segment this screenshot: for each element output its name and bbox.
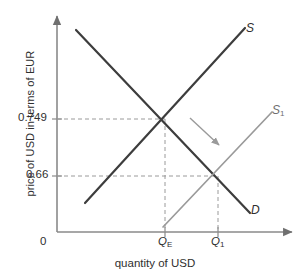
x-axis-title: quantity of USD [75,258,235,270]
x-tick-label-q-new-text: Q [211,235,220,247]
y-tick-label-price-high: 0.749 [18,112,47,124]
x-tick-label-q-new: Q1 [211,236,224,248]
curve-label-supply-shifted-text: S [272,103,280,117]
y-axis-title: price of USD in terms of EUR [25,39,36,209]
y-tick-label-price-low: 0.66 [26,169,48,181]
supply-demand-chart: price of USD in terms of EUR quantity of… [0,0,303,277]
curve-label-supply-shifted-subscript: 1 [280,109,284,118]
curve-label-supply: S [246,22,254,34]
shift-arrow-icon [190,118,219,145]
x-tick-label-q-equilibrium: QE [158,236,172,248]
curve-label-demand: D [251,204,260,216]
x-tick-label-q-equilibrium-subscript: E [167,240,172,249]
origin-label: 0 [40,236,46,248]
x-tick-label-q-new-subscript: 1 [220,240,224,249]
x-tick-label-q-equilibrium-text: Q [158,235,167,247]
curve-label-supply-shifted: S1 [272,104,284,116]
